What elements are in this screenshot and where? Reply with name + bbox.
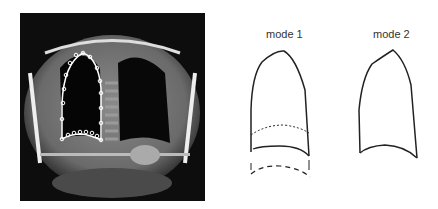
mode-shapes	[0, 0, 438, 209]
mode-2-shape	[359, 50, 417, 158]
mode-1-shape	[251, 51, 310, 177]
